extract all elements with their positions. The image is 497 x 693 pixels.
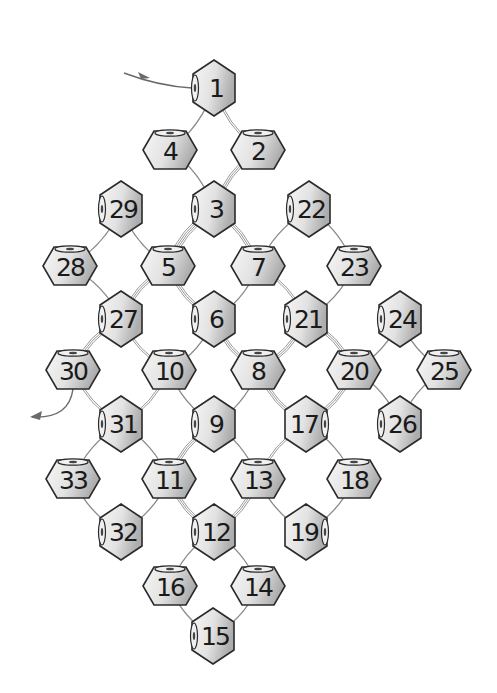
bead-number-label: 22	[297, 195, 325, 224]
thread-in-hole	[194, 528, 196, 536]
thread-in-hole	[194, 84, 196, 92]
bead-number-label: 11	[155, 466, 183, 495]
thread-in-hole	[324, 528, 326, 536]
bead-number-label: 3	[209, 195, 223, 224]
bead-number-label: 15	[201, 622, 229, 651]
bead-13: 13	[231, 459, 285, 498]
bead-7: 7	[231, 246, 285, 285]
exit-arrow-icon	[32, 389, 73, 417]
thread-in-hole	[101, 205, 103, 213]
bead-number-label: 1	[209, 74, 223, 103]
bead-29: 29	[99, 181, 143, 237]
bead-number-label: 31	[109, 410, 137, 439]
bead-6: 6	[192, 291, 236, 347]
thread-in-hole	[324, 420, 326, 428]
thread-in-hole	[166, 568, 174, 570]
bead-number-label: 2	[251, 137, 265, 166]
bead-14: 14	[231, 566, 285, 605]
thread-in-hole	[254, 568, 262, 570]
thread-in-hole	[380, 420, 382, 428]
thread-in-hole	[350, 248, 358, 250]
bead-number-label: 26	[388, 410, 417, 439]
bead-number-label: 4	[163, 137, 178, 166]
bead-28: 28	[43, 246, 97, 285]
thread-in-hole	[254, 352, 262, 354]
bead-number-label: 32	[109, 518, 137, 547]
bead-number-label: 9	[209, 410, 224, 439]
bead-number-label: 20	[340, 357, 369, 386]
bead-2: 2	[231, 130, 285, 169]
bead-number-label: 17	[290, 410, 318, 439]
beading-diagram: 1234567891011121314151617181920212223242…	[0, 0, 497, 693]
thread-in-hole	[101, 528, 103, 536]
bead-3: 3	[192, 181, 236, 237]
thread-in-hole	[194, 420, 196, 428]
bead-number-label: 24	[388, 305, 417, 334]
bead-33: 33	[46, 459, 100, 498]
bead-number-label: 8	[251, 357, 266, 386]
thread-in-hole	[380, 315, 382, 323]
bead-number-label: 10	[155, 357, 184, 386]
bead-number-label: 27	[109, 305, 137, 334]
thread-in-hole	[165, 352, 173, 354]
bead-number-label: 14	[244, 573, 273, 602]
bead-4: 4	[143, 130, 197, 169]
thread-in-hole	[66, 248, 74, 250]
bead-9: 9	[192, 396, 236, 452]
thread-in-hole	[101, 420, 103, 428]
bead-number-label: 7	[251, 253, 265, 282]
bead-27: 27	[99, 291, 143, 347]
beads: 1234567891011121314151617181920212223242…	[43, 60, 471, 664]
bead-11: 11	[142, 459, 196, 498]
bead-12: 12	[192, 504, 236, 560]
bead-number-label: 19	[290, 518, 319, 547]
bead-30: 30	[46, 350, 100, 389]
thread-in-hole	[440, 352, 448, 354]
thread-in-hole	[289, 205, 291, 213]
thread-in-hole	[254, 461, 262, 463]
thread-in-hole	[254, 132, 262, 134]
thread-in-hole	[165, 461, 173, 463]
bead-number-label: 28	[56, 253, 85, 282]
bead-20: 20	[327, 350, 381, 389]
thread-in-hole	[101, 315, 103, 323]
bead-18: 18	[327, 459, 381, 498]
bead-number-label: 25	[430, 357, 458, 386]
bead-8: 8	[231, 350, 285, 389]
thread-in-hole	[286, 315, 288, 323]
bead-number-label: 16	[156, 573, 185, 602]
bead-26: 26	[378, 396, 422, 452]
bead-17: 17	[285, 396, 329, 452]
exit-arrowhead-icon	[30, 411, 42, 420]
bead-number-label: 13	[244, 466, 272, 495]
bead-25: 25	[417, 350, 471, 389]
bead-21: 21	[284, 291, 328, 347]
bead-10: 10	[142, 350, 196, 389]
thread-in-hole	[166, 132, 174, 134]
bead-32: 32	[99, 504, 143, 560]
thread-in-hole	[350, 461, 358, 463]
bead-number-label: 30	[59, 357, 88, 386]
thread-in-hole	[69, 461, 77, 463]
thread-in-hole	[350, 352, 358, 354]
entry-arrow-icon	[124, 73, 192, 88]
bead-5: 5	[141, 246, 195, 285]
bead-number-label: 5	[161, 253, 175, 282]
bead-1: 1	[192, 60, 236, 116]
thread-in-hole	[194, 315, 196, 323]
bead-number-label: 21	[294, 305, 322, 334]
bead-23: 23	[327, 246, 381, 285]
thread-in-hole	[164, 248, 172, 250]
bead-number-label: 6	[209, 305, 224, 334]
thread-in-hole	[254, 248, 262, 250]
bead-15: 15	[191, 608, 235, 664]
bead-16: 16	[143, 566, 197, 605]
thread-in-hole	[193, 632, 195, 640]
thread-in-hole	[194, 205, 196, 213]
bead-31: 31	[99, 396, 143, 452]
bead-number-label: 29	[109, 195, 138, 224]
bead-24: 24	[378, 291, 422, 347]
bead-number-label: 12	[202, 518, 230, 547]
thread-in-hole	[69, 352, 77, 354]
bead-22: 22	[287, 181, 331, 237]
